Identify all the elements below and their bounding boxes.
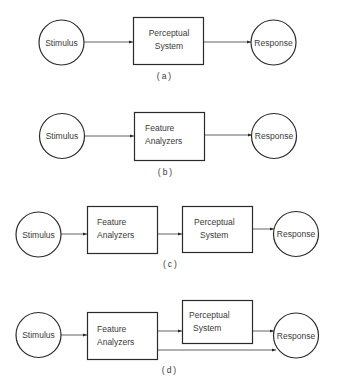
feature-analyzers-label-line2: Analyzers [97, 230, 134, 240]
stimulus-label: Stimulus [46, 131, 79, 141]
response-label: Response [254, 38, 293, 48]
panel-label-c: (c) [163, 259, 179, 269]
panel-label-d: (d) [162, 365, 178, 375]
perceptual-system-label-line2: System [193, 323, 221, 333]
perceptual-system-label-line2: System [200, 230, 228, 240]
stimulus-label: Stimulus [22, 330, 55, 340]
response-label: Response [255, 131, 294, 141]
panel-a: Stimulus Perceptual System Response (a) [39, 18, 296, 82]
panel-d: Stimulus Feature Analyzers Perceptual Sy… [16, 301, 319, 376]
panel-label-a: (a) [157, 71, 173, 81]
perceptual-system-label-line1: Perceptual [149, 28, 190, 38]
stimulus-label: Stimulus [45, 38, 78, 48]
feature-analyzers-label-line2: Analyzers [145, 136, 182, 146]
perception-model-diagram: Stimulus Perceptual System Response (a) … [0, 0, 337, 389]
feature-analyzers-label-line2: Analyzers [97, 337, 134, 347]
perceptual-system-label-line1: Perceptual [189, 310, 230, 320]
perceptual-system-label-line2: System [155, 41, 183, 51]
panel-label-b: (b) [158, 167, 174, 177]
feature-analyzers-label-line1: Feature [97, 324, 127, 334]
perceptual-system-box [183, 301, 253, 344]
stimulus-label: Stimulus [22, 230, 55, 240]
feature-analyzers-label-line1: Feature [145, 123, 175, 133]
feature-analyzers-label-line1: Feature [97, 217, 127, 227]
perceptual-system-label-line1: Perceptual [194, 217, 235, 227]
response-label: Response [277, 229, 316, 239]
panel-c: Stimulus Feature Analyzers Perceptual Sy… [16, 207, 319, 270]
response-label: Response [277, 331, 316, 341]
panel-b: Stimulus Feature Analyzers Response (b) [40, 113, 297, 178]
feature-analyzers-box [88, 313, 158, 360]
